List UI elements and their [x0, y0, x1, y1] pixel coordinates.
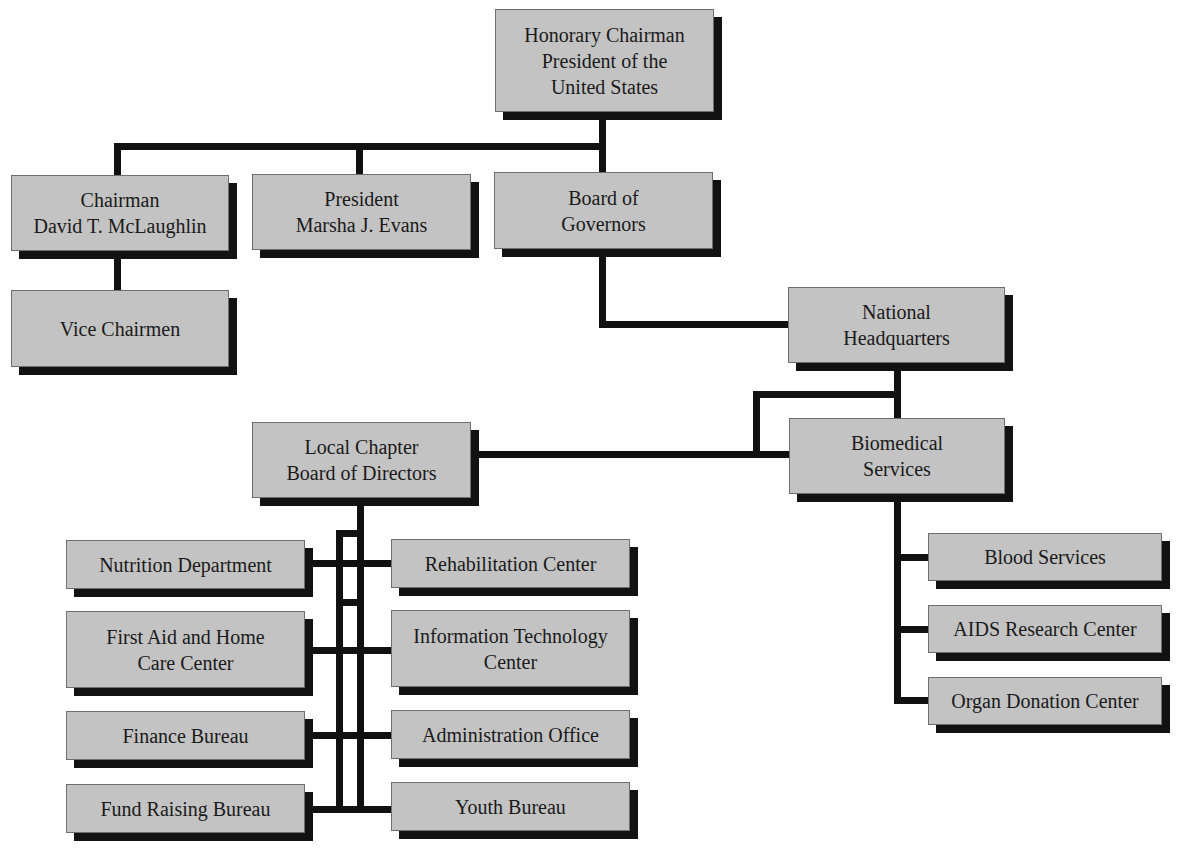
box: Organ Donation Center	[928, 677, 1162, 725]
node-label-line: Services	[863, 456, 931, 482]
node-label-line: Honorary Chairman	[524, 22, 685, 48]
box: First Aid and Home Care Center	[66, 611, 305, 688]
node-label-line: Board of Directors	[287, 460, 437, 486]
connector-bracket-top	[336, 530, 364, 537]
connector-to-aids	[894, 626, 929, 633]
connector-to-president	[356, 143, 363, 176]
connector-branch-down	[753, 391, 760, 458]
box: Biomedical Services	[789, 418, 1005, 494]
node-biomedical-services: Biomedical Services	[789, 418, 1005, 494]
node-label-line: Organ Donation Center	[951, 688, 1138, 714]
node-label-line: Care Center	[137, 650, 233, 676]
connector-to-local-chapter	[447, 451, 789, 458]
node-president: President Marsha J. Evans	[252, 174, 471, 250]
node-board-of-governors: Board of Governors	[494, 172, 713, 249]
connector-to-organ	[894, 697, 929, 704]
box: Rehabilitation Center	[391, 539, 630, 588]
connector-bog-to-hq	[599, 321, 789, 328]
connector-bracket-right	[357, 530, 364, 813]
connector-bracket-bottom	[310, 806, 392, 813]
node-administration-office: Administration Office	[391, 710, 630, 759]
connector-biomedical-down	[894, 493, 901, 704]
node-label-line: Nutrition Department	[99, 552, 272, 578]
box: AIDS Research Center	[928, 605, 1162, 653]
box: Blood Services	[928, 533, 1162, 581]
connector-row-1	[310, 560, 392, 567]
box: Chairman David T. McLaughlin	[11, 175, 229, 251]
node-label-line: Fund Raising Bureau	[101, 796, 271, 822]
node-label-line: Headquarters	[843, 325, 950, 351]
node-label-line: Information Technology	[413, 623, 607, 649]
box: Vice Chairmen	[11, 290, 229, 367]
box: Fund Raising Bureau	[66, 784, 305, 833]
node-honorary-chairman: Honorary Chairman President of the Unite…	[495, 9, 714, 112]
node-label-line: Finance Bureau	[122, 723, 248, 749]
node-label-line: Youth Bureau	[455, 794, 566, 820]
node-label-line: AIDS Research Center	[953, 616, 1136, 642]
node-label-line: Center	[484, 649, 537, 675]
node-local-chapter: Local Chapter Board of Directors	[252, 422, 471, 498]
node-aids-research-center: AIDS Research Center	[928, 605, 1162, 653]
box: Honorary Chairman President of the Unite…	[495, 9, 714, 112]
connector-bog-down	[599, 250, 606, 328]
node-label-line: Rehabilitation Center	[425, 551, 597, 577]
box: National Headquarters	[788, 287, 1005, 363]
node-organ-donation-center: Organ Donation Center	[928, 677, 1162, 725]
node-blood-services: Blood Services	[928, 533, 1162, 581]
node-label-line: National	[862, 299, 931, 325]
connector-bracket-rung	[336, 599, 364, 606]
node-label-line: Board of	[568, 185, 639, 211]
node-national-headquarters: National Headquarters	[788, 287, 1005, 363]
box: Youth Bureau	[391, 782, 630, 831]
node-youth-bureau: Youth Bureau	[391, 782, 630, 831]
node-label-line: Administration Office	[422, 722, 599, 748]
node-label-line: Biomedical	[851, 430, 943, 456]
node-label-line: President of the	[542, 48, 668, 74]
connector-hq-branch	[753, 391, 901, 398]
connector-to-blood	[894, 554, 929, 561]
node-label-line: President	[324, 186, 398, 212]
box: Information Technology Center	[391, 610, 630, 687]
connector-row-2	[310, 647, 392, 654]
node-finance-bureau: Finance Bureau	[66, 711, 305, 760]
box: Administration Office	[391, 710, 630, 759]
box: Nutrition Department	[66, 540, 305, 589]
node-vice-chairmen: Vice Chairmen	[11, 290, 229, 367]
node-first-aid-home-care: First Aid and Home Care Center	[66, 611, 305, 688]
node-label-line: Local Chapter	[305, 434, 419, 460]
node-label-line: First Aid and Home	[106, 624, 264, 650]
node-nutrition-department: Nutrition Department	[66, 540, 305, 589]
connector-to-chairman	[114, 143, 121, 176]
node-information-technology: Information Technology Center	[391, 610, 630, 687]
box: Local Chapter Board of Directors	[252, 422, 471, 498]
connector-row-3	[310, 732, 392, 739]
node-label-line: Blood Services	[984, 544, 1106, 570]
node-label-line: Marsha J. Evans	[296, 212, 428, 238]
box: Board of Governors	[494, 172, 713, 249]
node-label-line: Chairman	[81, 187, 160, 213]
node-label-line: United States	[551, 74, 658, 100]
node-chairman: Chairman David T. McLaughlin	[11, 175, 229, 251]
node-label-line: Vice Chairmen	[60, 316, 180, 342]
node-fund-raising-bureau: Fund Raising Bureau	[66, 784, 305, 833]
connector-bracket-left	[336, 530, 343, 813]
box: Finance Bureau	[66, 711, 305, 760]
node-label-line: Governors	[561, 211, 645, 237]
node-rehabilitation-center: Rehabilitation Center	[391, 539, 630, 588]
box: President Marsha J. Evans	[252, 174, 471, 250]
node-label-line: David T. McLaughlin	[33, 213, 206, 239]
